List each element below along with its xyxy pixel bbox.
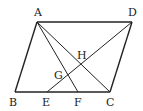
label-b: B xyxy=(9,96,17,109)
label-d: D xyxy=(128,6,137,19)
label-a: A xyxy=(33,6,43,19)
label-h: H xyxy=(77,49,87,62)
geometry-diagram: A D B E F C G H xyxy=(0,0,143,111)
label-e: E xyxy=(42,96,50,109)
label-c: C xyxy=(106,96,114,109)
label-f: F xyxy=(74,96,82,109)
segment-cd xyxy=(110,22,132,92)
segment-ab xyxy=(15,22,37,92)
segment-ac xyxy=(37,22,110,92)
label-g: G xyxy=(54,69,63,82)
